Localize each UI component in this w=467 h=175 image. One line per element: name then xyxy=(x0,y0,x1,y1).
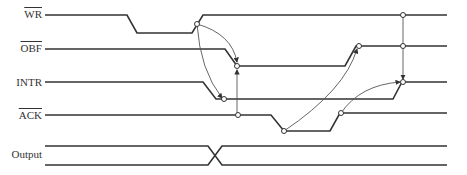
waveforms xyxy=(0,0,467,175)
event-ack-fall xyxy=(282,129,287,134)
arrow-wr-to-intr xyxy=(197,24,222,98)
arrow-ack-to-intr-rise xyxy=(341,82,400,113)
arrow-ack-to-obf-rise xyxy=(284,49,357,131)
event-obf-fall xyxy=(235,64,240,69)
event-intr-rise xyxy=(401,80,406,85)
timing-diagram: WR OBF INTR ACK Output xyxy=(0,0,467,175)
waveform-ack xyxy=(45,113,447,131)
waveform-intr xyxy=(45,82,447,99)
waveform-output-bottom xyxy=(45,146,447,165)
event-ack-rise xyxy=(339,111,344,116)
event-intr-fall xyxy=(222,97,227,102)
event-wr-fall xyxy=(195,22,200,27)
event-wr-mark xyxy=(401,13,406,18)
event-ack-mark xyxy=(236,113,241,118)
waveform-wr xyxy=(45,15,447,33)
event-obf-rise xyxy=(357,44,362,49)
waveform-obf xyxy=(45,46,447,66)
waveform-output-top xyxy=(45,146,447,165)
event-obf-mark xyxy=(401,44,406,49)
